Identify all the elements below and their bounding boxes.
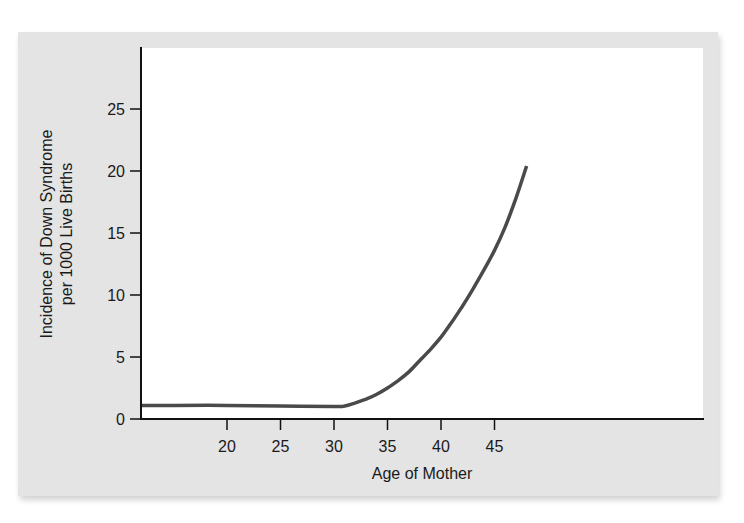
x-tick-label: 30: [325, 438, 343, 455]
y-axis-ticks: 0510152025: [107, 101, 141, 428]
x-tick-label: 45: [486, 438, 504, 455]
y-axis-title-line-2: per 1000 Live Births: [58, 163, 75, 305]
y-tick-label: 20: [107, 163, 125, 180]
x-axis-ticks: 202530354045: [218, 419, 503, 455]
y-axis-title: Incidence of Down Syndrome per 1000 Live…: [38, 129, 75, 338]
x-tick-label: 35: [379, 438, 397, 455]
plot-area: [141, 48, 703, 419]
y-tick-label: 15: [107, 225, 125, 242]
y-tick-label: 0: [116, 411, 125, 428]
line-chart: 0510152025 202530354045 Age of Mother In…: [0, 0, 744, 523]
y-axis-title-line-1: Incidence of Down Syndrome: [38, 129, 55, 338]
y-tick-label: 10: [107, 287, 125, 304]
y-tick-label: 25: [107, 101, 125, 118]
x-tick-label: 20: [218, 438, 236, 455]
y-tick-label: 5: [116, 349, 125, 366]
x-tick-label: 25: [272, 438, 290, 455]
x-tick-label: 40: [432, 438, 450, 455]
x-axis-title: Age of Mother: [372, 465, 473, 482]
